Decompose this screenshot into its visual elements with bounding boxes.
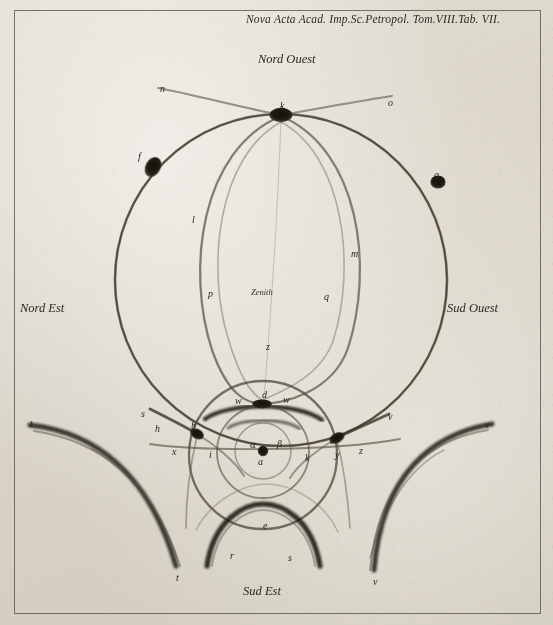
point-label-k-inner: k (305, 453, 309, 463)
point-label-t-outer: t (30, 419, 33, 429)
point-label-beta: β (277, 440, 282, 449)
point-label-s-left: s (141, 409, 145, 419)
point-label-t-bottom: t (176, 573, 179, 583)
point-label-x: x (172, 447, 176, 457)
point-label-alpha: α (250, 441, 256, 450)
point-label-o: o (388, 98, 393, 108)
point-label-k: k (280, 101, 284, 111)
point-label-a: a (258, 457, 263, 467)
point-label-e: e (263, 521, 267, 531)
point-label-y: y (335, 450, 339, 460)
point-label-d: d (262, 390, 267, 400)
compass-label-north-west: Nord Ouest (258, 52, 316, 67)
point-label-w-right: w (283, 395, 290, 405)
point-label-n: n (160, 84, 165, 94)
point-label-p: p (208, 289, 213, 299)
point-label-h: h (155, 424, 160, 434)
zenith-label: Zenith (251, 287, 273, 297)
point-label-v-outer: v (485, 420, 489, 430)
point-label-l: l (192, 215, 195, 225)
point-label-r: r (230, 551, 234, 561)
point-label-g: g (434, 170, 439, 180)
point-label-s-bottom: s (288, 553, 292, 563)
point-label-c: c (330, 436, 334, 446)
compass-label-north-east: Nord Est (20, 301, 64, 316)
point-label-b: b (191, 421, 196, 431)
point-label-q: q (324, 292, 329, 302)
point-label-w-left: w (235, 396, 242, 406)
point-label-v-upper: v (388, 412, 392, 422)
compass-label-south-west: Sud Ouest (447, 301, 498, 316)
point-label-z: z (266, 342, 270, 352)
point-label-v-bottom: v (373, 577, 377, 587)
point-label-i: i (209, 450, 212, 460)
engraving-plate: Nova Acta Acad. Imp.Sc.Petropol. Tom.VII… (0, 0, 553, 625)
point-label-f: f (138, 152, 141, 162)
compass-label-south-east: Sud Est (243, 584, 281, 599)
point-label-m: m (351, 249, 358, 259)
plate-title: Nova Acta Acad. Imp.Sc.Petropol. Tom.VII… (246, 13, 500, 25)
point-label-z-right: z (359, 446, 363, 456)
